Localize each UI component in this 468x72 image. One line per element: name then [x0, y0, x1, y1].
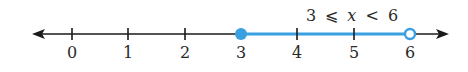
inequality-op1: ⩽	[325, 6, 338, 25]
tick-label-6: 6	[405, 43, 415, 62]
tick-label-5: 5	[349, 43, 359, 62]
closed-endpoint-dot	[235, 28, 247, 40]
inequality-op2: <	[365, 6, 378, 25]
number-line-diagram: 0 1 2 3 4 5 6 3 ⩽ x < 6	[0, 0, 468, 72]
tick-label-2: 2	[180, 43, 190, 62]
inequality-var: x	[347, 6, 356, 25]
tick-label-4: 4	[292, 43, 302, 62]
inequality-lhs: 3	[306, 6, 316, 25]
tick-label-0: 0	[67, 43, 77, 62]
tick-label-1: 1	[123, 43, 133, 62]
inequality-label: 3 ⩽ x < 6	[306, 6, 398, 25]
inequality-rhs: 6	[388, 6, 398, 25]
tick-label-3: 3	[236, 43, 246, 62]
open-endpoint-circle	[405, 29, 415, 39]
